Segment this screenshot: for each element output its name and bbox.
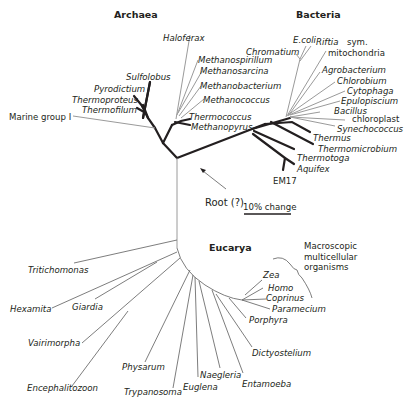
- taxon-label: Pyrodictium: [94, 84, 145, 94]
- taxon-label: Entamoeba: [242, 379, 291, 389]
- taxon-label: Physarum: [122, 362, 165, 372]
- taxon-label: Porphyra: [249, 315, 288, 325]
- taxon-label: Methanopyrus: [191, 122, 253, 132]
- domain-label-archaea: Archaea: [114, 9, 158, 20]
- taxon-label: Sulfolobus: [126, 72, 171, 82]
- taxon-label: Chromatium: [246, 47, 299, 57]
- taxon-label: Euglena: [183, 382, 218, 392]
- tree-canvas: Archaea Bacteria Eucarya Haloferax Metha…: [0, 0, 410, 407]
- taxon-label: Dictyostelium: [252, 348, 311, 358]
- macroscopic-label-line3: organisms: [304, 262, 349, 272]
- taxon-label: Thermus: [313, 133, 351, 143]
- taxon-label: Hexamita: [10, 304, 52, 314]
- macroscopic-label-line2: multicellular: [304, 252, 358, 262]
- root-arrow: [200, 168, 226, 189]
- taxon-label: mitochondria: [328, 48, 385, 58]
- scale-label: 10% change: [243, 202, 296, 212]
- taxon-label: Aquifex: [296, 164, 330, 174]
- taxon-label: Haloferax: [163, 33, 205, 43]
- taxon-label: Methanosarcina: [200, 66, 269, 76]
- taxon-label: Tritichomonas: [28, 265, 89, 275]
- macroscopic-label-line1: Macroscopic: [304, 241, 357, 251]
- taxon-label: Naegleria: [200, 370, 241, 380]
- taxon-label: Thermotoga: [297, 153, 350, 163]
- taxon-label: Thermoproteus: [72, 95, 138, 105]
- taxon-label: sym.: [347, 37, 368, 47]
- domain-label-eucarya: Eucarya: [209, 242, 252, 253]
- taxon-label: Methanococcus: [203, 95, 270, 105]
- taxon-label: Chlorobium: [337, 76, 387, 86]
- taxon-label: Epulopiscium: [341, 96, 398, 106]
- taxon-label: Vairimorpha: [28, 338, 80, 348]
- root-label: Root (?): [205, 197, 244, 208]
- taxon-label: E.coli: [293, 35, 317, 45]
- taxon-label: Agrobacterium: [321, 65, 386, 75]
- taxon-label: chloroplast: [352, 114, 400, 124]
- taxon-label: Cytophaga: [347, 86, 394, 96]
- taxon-label: Methanobacterium: [200, 81, 281, 91]
- taxon-label: Thermococcus: [189, 112, 252, 122]
- taxon-label: Marine group I: [9, 112, 71, 122]
- taxon-label: Zea: [262, 270, 279, 280]
- taxon-label: Riftia: [316, 37, 338, 47]
- taxon-label: Trypanosoma: [124, 387, 182, 397]
- taxon-label: Homo: [268, 283, 293, 293]
- taxon-label: Paramecium: [272, 304, 326, 314]
- taxon-label: Giardia: [72, 302, 103, 312]
- phylogenetic-tree-figure: Archaea Bacteria Eucarya Haloferax Metha…: [0, 0, 410, 407]
- domain-label-bacteria: Bacteria: [296, 9, 341, 20]
- taxon-label: Encephalitozoon: [27, 383, 98, 393]
- taxon-label: Thermofilum: [82, 105, 137, 115]
- taxon-label: EM17: [273, 176, 297, 186]
- taxon-label: Coprinus: [266, 293, 305, 303]
